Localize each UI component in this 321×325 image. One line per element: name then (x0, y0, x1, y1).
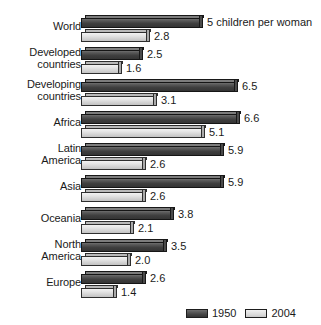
bar-face (81, 210, 171, 220)
bar-face (81, 64, 119, 74)
bar-end-cap (127, 253, 131, 266)
bar-end-cap (142, 189, 146, 202)
bar-value-label: 2.6 (150, 158, 165, 170)
bar-face (81, 96, 154, 106)
bar-face (81, 224, 131, 234)
legend-label: 1950 (212, 307, 236, 319)
bar-2004 (81, 253, 128, 266)
fertility-bar-chart: World5children per woman2.8Developed cou… (0, 0, 321, 325)
bar-2004 (81, 285, 114, 298)
bar-face (81, 128, 202, 138)
bar-2004 (81, 189, 143, 202)
bar-value-label: 6.6 (244, 112, 259, 124)
bar-face (81, 242, 164, 252)
bar-face (81, 256, 128, 266)
bar-2004 (81, 157, 143, 170)
chart-row: North America3.52.0 (0, 238, 321, 270)
bar-value-label: 5.1 (209, 126, 224, 138)
bar-value-label: 3.5 (171, 240, 186, 252)
chart-row: Latin America5.92.6 (0, 142, 321, 174)
legend-label: 2004 (271, 307, 295, 319)
category-label: World (0, 21, 81, 33)
bar-end-cap (220, 143, 224, 156)
category-label: Africa (0, 117, 81, 129)
bar-face (81, 82, 235, 92)
bar-end-cap (146, 29, 150, 42)
bar-1950 (81, 47, 140, 60)
bar-value-label: 5children per woman (207, 16, 312, 28)
legend-swatch-2004 (245, 309, 267, 318)
bar-value-label: 3.8 (178, 208, 193, 220)
category-label: Developed countries (0, 47, 81, 70)
legend-item: 2004 (245, 307, 295, 319)
bar-face (81, 146, 221, 156)
chart-row: Developed countries2.51.6 (0, 46, 321, 78)
bar-end-cap (142, 157, 146, 170)
bar-value-label: 2.8 (154, 30, 169, 42)
category-label: Developing countries (0, 79, 81, 102)
bar-value-label: 5.9 (228, 176, 243, 188)
bar-face (81, 274, 143, 284)
legend-swatch-1950 (186, 309, 208, 318)
bar-2004 (81, 93, 154, 106)
bar-face (81, 18, 200, 28)
bar-value-label: 1.4 (121, 286, 136, 298)
bar-1950 (81, 79, 235, 92)
bar-end-cap (113, 285, 117, 298)
bar-1950 (81, 271, 143, 284)
bar-2004 (81, 125, 202, 138)
bar-end-cap (163, 239, 167, 252)
bar-value-label: 2.6 (150, 272, 165, 284)
bar-1950 (81, 15, 200, 28)
bar-end-cap (130, 221, 134, 234)
bar-end-cap (220, 175, 224, 188)
chart-row: Europe2.61.4 (0, 270, 321, 302)
bar-1950 (81, 143, 221, 156)
bar-face (81, 178, 221, 188)
bar-end-cap (199, 15, 203, 28)
category-label: Latin America (0, 143, 81, 166)
bar-end-cap (139, 47, 143, 60)
bar-face (81, 192, 143, 202)
bar-face (81, 32, 147, 42)
bar-value-label: 2.5 (147, 48, 162, 60)
chart-row: Developing countries6.53.1 (0, 78, 321, 110)
bar-2004 (81, 221, 131, 234)
bar-end-cap (170, 207, 174, 220)
bar-end-cap (234, 79, 238, 92)
bar-2004 (81, 29, 147, 42)
bar-value-label: 2.1 (138, 222, 153, 234)
bar-end-cap (236, 111, 240, 124)
chart-row: Oceania3.82.1 (0, 206, 321, 238)
bar-value-label: 2.6 (150, 190, 165, 202)
bar-1950 (81, 175, 221, 188)
chart-row: Asia5.92.6 (0, 174, 321, 206)
bar-end-cap (142, 271, 146, 284)
bar-1950 (81, 207, 171, 220)
bar-face (81, 114, 237, 124)
category-label: North America (0, 239, 81, 262)
chart-row: Africa6.65.1 (0, 110, 321, 142)
bar-2004 (81, 61, 119, 74)
chart-legend: 19502004 (186, 306, 296, 320)
bar-1950 (81, 111, 237, 124)
bar-face (81, 50, 140, 60)
bar-face (81, 288, 114, 298)
bar-value-label: 2.0 (135, 254, 150, 266)
bar-1950 (81, 239, 164, 252)
bar-end-cap (118, 61, 122, 74)
bar-face (81, 160, 143, 170)
unit-annotation: children per woman (213, 16, 312, 28)
bar-end-cap (201, 125, 205, 138)
legend-item: 1950 (186, 307, 236, 319)
bar-value-label: 6.5 (242, 80, 257, 92)
chart-row: World5children per woman2.8 (0, 14, 321, 46)
category-label: Europe (0, 277, 81, 289)
bar-value-label: 5.9 (228, 144, 243, 156)
category-label: Asia (0, 181, 81, 193)
category-label: Oceania (0, 213, 81, 225)
bar-value-label: 1.6 (126, 62, 141, 74)
bar-value-label: 3.1 (161, 94, 176, 106)
bar-end-cap (153, 93, 157, 106)
